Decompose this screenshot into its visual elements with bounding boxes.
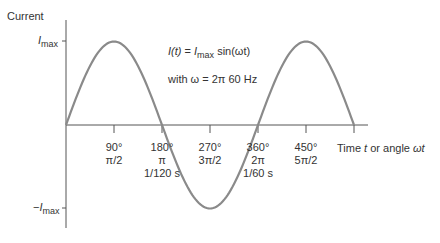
tick-label-180: 180°π1/120 s — [137, 141, 187, 180]
y-axis-title: Current — [7, 10, 44, 23]
equation-formula: I(t) = Imax sin(ωt) — [168, 45, 250, 58]
sine-diagram — [0, 0, 440, 243]
tick-label-90: 90°π/2 — [89, 141, 139, 167]
tick-label-360: 360°2π1/60 s — [233, 141, 283, 180]
x-ticks — [114, 125, 354, 133]
neg-imax-label: −Imax — [33, 201, 60, 214]
tick-label-450: 450°5π/2 — [281, 141, 331, 167]
imax-label: Imax — [38, 34, 58, 47]
equation-omega: with ω = 2π 60 Hz — [168, 73, 257, 86]
tick-label-270: 270°3π/2 — [185, 141, 235, 167]
x-axis-title: Time t or angle ωt — [337, 142, 425, 155]
